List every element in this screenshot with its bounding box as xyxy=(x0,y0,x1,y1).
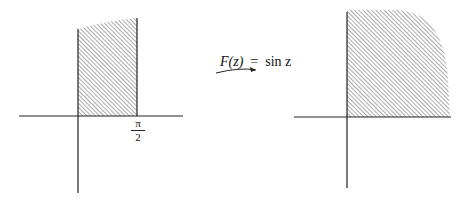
pi-over-2-tick-label: π 2 xyxy=(131,118,145,143)
right-plane xyxy=(294,10,451,188)
tick-numerator: π xyxy=(131,118,145,129)
domain-strip xyxy=(78,18,137,116)
equals-sign: = xyxy=(250,54,258,69)
function-name: F(z) xyxy=(220,54,243,69)
diagram-canvas xyxy=(0,0,470,202)
image-region xyxy=(347,10,450,117)
tick-denominator: 2 xyxy=(131,132,145,143)
function-expression: sin z xyxy=(265,54,291,69)
left-plane xyxy=(19,18,183,193)
mapping-formula: F(z) = sin z xyxy=(220,54,291,70)
